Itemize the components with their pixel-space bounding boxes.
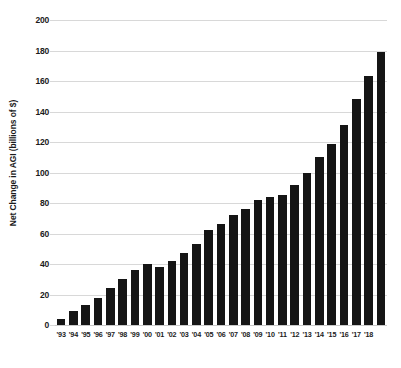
x-axis-tick-label: '95 [80,330,92,339]
bar [278,195,287,325]
y-axis-tick-label: 20 [40,290,49,300]
y-axis-tick-label: 200 [35,15,49,25]
y-axis-tick-label: 120 [35,137,49,147]
y-axis-tick-label: 40 [40,259,49,269]
x-axis-tick-label: '97 [104,330,116,339]
bar [217,224,226,325]
x-axis-tick-label: '11 [276,330,288,339]
bar [155,267,164,325]
y-axis-tick-label: 100 [35,168,49,178]
y-axis-tick-label: 180 [35,46,49,56]
x-axis-tick-label: '13 [301,330,313,339]
plot-area [55,20,387,325]
x-axis-tick-label: '10 [264,330,276,339]
bar [94,298,103,325]
x-axis-tick-label: '18 [362,330,374,339]
y-axis-title: Net Change in AGI (billions of $) [0,0,26,325]
bar [266,197,275,325]
bar [118,279,127,325]
x-axis-tick-label: '09 [252,330,264,339]
y-axis-tick-label: 60 [40,229,49,239]
x-axis-tick-label: '07 [227,330,239,339]
x-axis-tick-label: '16 [338,330,350,339]
bar [180,253,189,325]
x-axis-tick-labels: '93'94'95'96'97'98'99'00'01'02'03'04'05'… [55,327,387,347]
x-axis-tick-label: '02 [166,330,178,339]
bars-series [55,20,387,325]
y-axis-tick-label: 160 [35,76,49,86]
bar [290,185,299,325]
x-axis-tick-label: '99 [129,330,141,339]
bar [204,230,213,325]
x-axis-tick-label: '93 [55,330,67,339]
x-axis-tick-label: '08 [239,330,251,339]
bar [131,270,140,325]
y-axis-title-label: Net Change in AGI (billions of $) [8,99,18,225]
x-axis-tick-label: '01 [153,330,165,339]
bar [377,52,386,325]
x-axis-tick-label: '96 [92,330,104,339]
bar [327,144,336,325]
x-axis-tick-label: '12 [289,330,301,339]
x-axis-tick-label: '94 [67,330,79,339]
y-axis-tick-label: 80 [40,198,49,208]
y-axis-tick-label: 0 [44,320,49,330]
x-axis-tick-label: '06 [215,330,227,339]
bar [340,125,349,325]
bar-chart: Net Change in AGI (billions of $) 020406… [0,0,401,368]
bar [81,305,90,325]
bar [143,264,152,325]
bar [168,261,177,325]
gridline [55,325,387,326]
x-axis-tick-label: '05 [203,330,215,339]
x-axis-tick-label: '15 [326,330,338,339]
bar [352,99,361,325]
bar [57,319,66,325]
y-axis-tick-labels: 020406080100120140160180200 [26,0,52,340]
x-axis-tick-label: '04 [190,330,202,339]
x-axis-tick-label: '14 [313,330,325,339]
x-axis-tick-label: '98 [116,330,128,339]
bar [229,215,238,325]
y-axis-tick-label: 140 [35,107,49,117]
x-axis-tick-label: '03 [178,330,190,339]
bar [106,288,115,325]
bar [192,244,201,325]
bar [303,173,312,326]
bar [254,200,263,325]
bar [241,209,250,325]
x-axis-tick-label: '00 [141,330,153,339]
bar [315,157,324,325]
bar [69,311,78,325]
bar [364,76,373,325]
x-axis-tick-label: '17 [350,330,362,339]
y-axis-tick-mark [50,325,55,326]
